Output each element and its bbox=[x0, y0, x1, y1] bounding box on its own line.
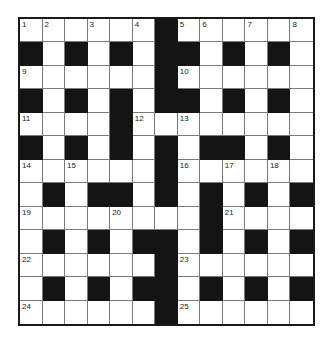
grid-cell[interactable] bbox=[110, 301, 133, 324]
grid-cell[interactable] bbox=[223, 230, 246, 253]
grid-cell[interactable] bbox=[223, 254, 246, 277]
grid-cell[interactable] bbox=[268, 19, 291, 42]
grid-cell[interactable] bbox=[133, 136, 156, 159]
grid-cell[interactable] bbox=[178, 136, 201, 159]
grid-cell[interactable] bbox=[88, 160, 111, 183]
grid-cell[interactable]: 19 bbox=[20, 207, 43, 230]
grid-cell[interactable] bbox=[110, 254, 133, 277]
grid-cell[interactable] bbox=[200, 113, 223, 136]
grid-cell[interactable] bbox=[133, 89, 156, 112]
grid-cell[interactable] bbox=[20, 277, 43, 300]
grid-cell[interactable] bbox=[65, 207, 88, 230]
grid-cell[interactable] bbox=[133, 42, 156, 65]
grid-cell[interactable] bbox=[223, 113, 246, 136]
grid-cell[interactable]: 21 bbox=[223, 207, 246, 230]
grid-cell[interactable]: 25 bbox=[178, 301, 201, 324]
grid-cell[interactable] bbox=[223, 277, 246, 300]
grid-cell[interactable] bbox=[43, 160, 66, 183]
grid-cell[interactable] bbox=[200, 42, 223, 65]
grid-cell[interactable] bbox=[43, 301, 66, 324]
grid-cell[interactable] bbox=[133, 254, 156, 277]
grid-cell[interactable] bbox=[200, 89, 223, 112]
grid-cell[interactable]: 17 bbox=[223, 160, 246, 183]
grid-cell[interactable] bbox=[65, 230, 88, 253]
grid-cell[interactable] bbox=[133, 301, 156, 324]
grid-cell[interactable]: 7 bbox=[245, 19, 268, 42]
grid-cell[interactable] bbox=[43, 136, 66, 159]
grid-cell[interactable] bbox=[178, 230, 201, 253]
grid-cell[interactable]: 5 bbox=[178, 19, 201, 42]
grid-cell[interactable]: 1 bbox=[20, 19, 43, 42]
grid-cell[interactable] bbox=[110, 230, 133, 253]
grid-cell[interactable] bbox=[65, 66, 88, 89]
grid-cell[interactable] bbox=[43, 42, 66, 65]
grid-cell[interactable] bbox=[290, 89, 313, 112]
grid-cell[interactable] bbox=[65, 277, 88, 300]
grid-cell[interactable] bbox=[65, 113, 88, 136]
grid-cell[interactable] bbox=[268, 254, 291, 277]
grid-cell[interactable] bbox=[133, 207, 156, 230]
grid-cell[interactable]: 4 bbox=[133, 19, 156, 42]
grid-cell[interactable] bbox=[245, 136, 268, 159]
grid-cell[interactable] bbox=[245, 89, 268, 112]
grid-cell[interactable]: 11 bbox=[20, 113, 43, 136]
grid-cell[interactable]: 20 bbox=[110, 207, 133, 230]
grid-cell[interactable] bbox=[200, 160, 223, 183]
grid-cell[interactable] bbox=[290, 66, 313, 89]
grid-cell[interactable] bbox=[88, 207, 111, 230]
grid-cell[interactable]: 8 bbox=[290, 19, 313, 42]
grid-cell[interactable] bbox=[268, 230, 291, 253]
grid-cell[interactable] bbox=[43, 89, 66, 112]
grid-cell[interactable] bbox=[65, 301, 88, 324]
grid-cell[interactable]: 10 bbox=[178, 66, 201, 89]
grid-cell[interactable] bbox=[200, 66, 223, 89]
grid-cell[interactable] bbox=[290, 254, 313, 277]
grid-cell[interactable] bbox=[88, 254, 111, 277]
grid-cell[interactable] bbox=[245, 66, 268, 89]
grid-cell[interactable] bbox=[245, 113, 268, 136]
grid-cell[interactable] bbox=[245, 42, 268, 65]
grid-cell[interactable] bbox=[133, 160, 156, 183]
grid-cell[interactable] bbox=[110, 66, 133, 89]
grid-cell[interactable]: 16 bbox=[178, 160, 201, 183]
grid-cell[interactable] bbox=[20, 183, 43, 206]
grid-cell[interactable] bbox=[88, 66, 111, 89]
grid-cell[interactable] bbox=[290, 207, 313, 230]
grid-cell[interactable]: 13 bbox=[178, 113, 201, 136]
grid-cell[interactable] bbox=[43, 113, 66, 136]
grid-cell[interactable] bbox=[200, 301, 223, 324]
grid-cell[interactable] bbox=[290, 136, 313, 159]
grid-cell[interactable] bbox=[155, 113, 178, 136]
grid-cell[interactable] bbox=[65, 19, 88, 42]
grid-cell[interactable] bbox=[133, 66, 156, 89]
grid-cell[interactable] bbox=[88, 42, 111, 65]
grid-cell[interactable]: 14 bbox=[20, 160, 43, 183]
grid-cell[interactable] bbox=[223, 66, 246, 89]
grid-cell[interactable] bbox=[268, 66, 291, 89]
grid-cell[interactable] bbox=[290, 301, 313, 324]
grid-cell[interactable] bbox=[65, 254, 88, 277]
grid-cell[interactable] bbox=[178, 207, 201, 230]
grid-cell[interactable] bbox=[133, 183, 156, 206]
grid-cell[interactable]: 18 bbox=[268, 160, 291, 183]
grid-cell[interactable] bbox=[88, 136, 111, 159]
grid-cell[interactable] bbox=[43, 254, 66, 277]
grid-cell[interactable] bbox=[88, 301, 111, 324]
grid-cell[interactable]: 22 bbox=[20, 254, 43, 277]
grid-cell[interactable] bbox=[290, 160, 313, 183]
grid-cell[interactable] bbox=[88, 113, 111, 136]
grid-cell[interactable] bbox=[155, 207, 178, 230]
grid-cell[interactable] bbox=[268, 301, 291, 324]
grid-cell[interactable] bbox=[43, 207, 66, 230]
grid-cell[interactable]: 6 bbox=[200, 19, 223, 42]
grid-cell[interactable]: 2 bbox=[43, 19, 66, 42]
grid-cell[interactable] bbox=[223, 183, 246, 206]
grid-cell[interactable] bbox=[268, 207, 291, 230]
grid-cell[interactable] bbox=[20, 230, 43, 253]
grid-cell[interactable]: 9 bbox=[20, 66, 43, 89]
grid-cell[interactable]: 24 bbox=[20, 301, 43, 324]
grid-cell[interactable] bbox=[245, 160, 268, 183]
grid-cell[interactable] bbox=[290, 42, 313, 65]
grid-cell[interactable] bbox=[110, 160, 133, 183]
grid-cell[interactable] bbox=[268, 113, 291, 136]
